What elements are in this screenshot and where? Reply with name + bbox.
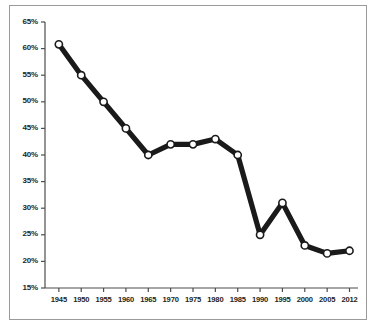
y-tick-label: 55% xyxy=(12,70,38,79)
data-point-marker xyxy=(279,199,286,206)
data-point-marker xyxy=(234,151,241,158)
data-point-marker xyxy=(324,250,331,257)
y-tick-label: 60% xyxy=(12,43,38,52)
data-point-marker xyxy=(189,141,196,148)
y-tick-label: 50% xyxy=(12,96,38,105)
y-tick-label: 35% xyxy=(12,176,38,185)
y-tick-label: 30% xyxy=(12,203,38,212)
data-point-marker xyxy=(55,41,62,48)
x-tick-label: 2012 xyxy=(337,295,363,304)
data-point-marker xyxy=(122,125,129,132)
data-point-marker xyxy=(100,98,107,105)
data-point-markers xyxy=(55,41,353,257)
line-chart-plot xyxy=(0,0,378,334)
figure-caption xyxy=(11,324,367,333)
data-point-marker xyxy=(212,135,219,142)
y-tick-label: 40% xyxy=(12,150,38,159)
y-tick-label: 65% xyxy=(12,17,38,26)
data-point-marker xyxy=(145,151,152,158)
data-point-marker xyxy=(301,242,308,249)
y-tick-label: 45% xyxy=(12,123,38,132)
data-point-marker xyxy=(256,231,263,238)
y-tick-label: 20% xyxy=(12,256,38,265)
data-point-marker xyxy=(167,141,174,148)
chart-figure: 65%60%55%50%45%40%35%30%25%20%15% 194519… xyxy=(0,0,378,334)
data-point-marker xyxy=(346,247,353,254)
data-line-series-1 xyxy=(59,44,350,253)
data-point-marker xyxy=(78,72,85,79)
y-tick-label: 15% xyxy=(12,283,38,292)
y-tick-label: 25% xyxy=(12,229,38,238)
